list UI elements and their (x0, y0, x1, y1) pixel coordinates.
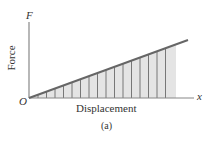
origin-label: O (19, 95, 27, 107)
x-axis-label: Displacement (76, 102, 136, 114)
y-axis-symbol: F (26, 9, 33, 21)
figure-caption: (a) (101, 120, 112, 131)
x-axis-symbol: x (197, 90, 202, 102)
y-axis-label: Force (5, 45, 17, 70)
